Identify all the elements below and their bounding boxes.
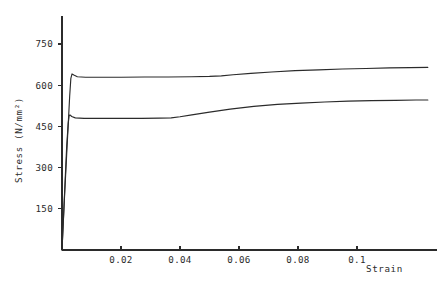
y-axis-title: Stress (N/mm²) (13, 97, 24, 183)
y-tick-label: 150 (36, 203, 54, 214)
y-tick-group: 150300450600750 (36, 38, 63, 214)
y-axis: 150300450600750 (36, 16, 63, 250)
y-tick-label: 450 (36, 121, 54, 132)
x-tick-group: 0.020.040.060.080.1 (109, 246, 365, 265)
y-tick-label: 750 (36, 38, 54, 49)
y-tick-label: 600 (36, 80, 54, 91)
plot-area (62, 67, 428, 250)
x-tick-label: 0.08 (286, 254, 309, 265)
stress-strain-chart: 150300450600750 0.020.040.060.080.1 Stra… (0, 0, 445, 287)
x-tick-label: 0.1 (348, 254, 366, 265)
x-axis-title: Strain (366, 263, 403, 274)
x-tick-label: 0.06 (227, 254, 250, 265)
chart-svg: 150300450600750 0.020.040.060.080.1 Stra… (0, 0, 445, 287)
x-tick-label: 0.02 (109, 254, 132, 265)
series-line-lower-curve (62, 100, 428, 250)
y-tick-label: 300 (36, 162, 54, 173)
x-tick-label: 0.04 (168, 254, 191, 265)
series-line-upper-curve (62, 67, 428, 250)
